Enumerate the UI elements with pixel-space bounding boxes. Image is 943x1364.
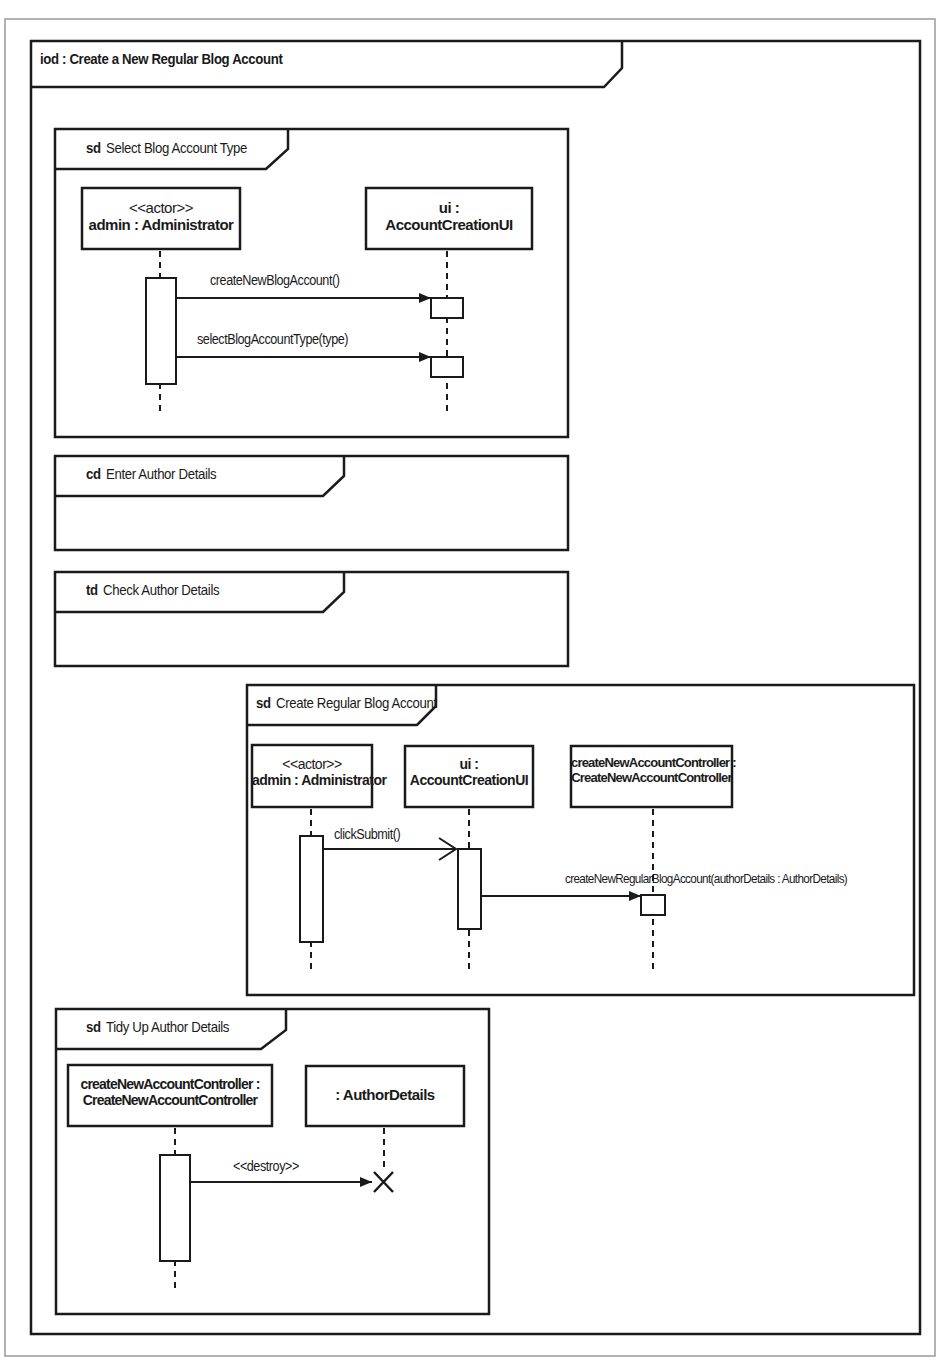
- fragment-name: Enter Author Details: [106, 465, 216, 482]
- fragment-kind: sd: [256, 694, 271, 711]
- lifeline-ui: ui : AccountCreationUI: [366, 199, 532, 234]
- fragment-name: Check Author Details: [103, 581, 219, 598]
- fragment-name: Tidy Up Author Details: [106, 1018, 229, 1035]
- message-label: <<destroy>>: [233, 1158, 299, 1174]
- lifeline-controller: createNewAccountController : CreateNewAc…: [68, 1076, 272, 1108]
- fragment-kind: sd: [86, 1018, 101, 1035]
- fragment-label: tdCheck Author Details: [86, 581, 219, 598]
- lifeline-admin: <<actor>> admin : Administrator: [252, 756, 372, 788]
- message-label: selectBlogAccountType(type): [197, 331, 348, 347]
- iod-frame-title: iod : Create a New Regular Blog Account: [40, 50, 282, 67]
- fragment-kind: cd: [86, 465, 101, 482]
- message-label: clickSubmit(): [334, 826, 400, 842]
- message-label: createNewBlogAccount(): [210, 272, 339, 288]
- lifeline-ui: ui : AccountCreationUI: [405, 756, 533, 788]
- message-label: createNewRegularBlogAccount(authorDetail…: [565, 872, 847, 887]
- fragment-label: cdEnter Author Details: [86, 465, 216, 482]
- fragment-label: sdCreate Regular Blog Account: [256, 694, 437, 711]
- lifeline-admin: <<actor>> admin : Administrator: [82, 199, 240, 234]
- lifeline-author-details: : AuthorDetails: [306, 1086, 464, 1103]
- fragment-name: Select Blog Account Type: [106, 139, 247, 156]
- destroy-x-icon: [374, 1172, 393, 1192]
- fragment-name: Create Regular Blog Account: [276, 694, 437, 711]
- fragment-label: sdTidy Up Author Details: [86, 1018, 229, 1035]
- fragment-kind: td: [86, 581, 98, 598]
- lifeline-controller: createNewAccountController : CreateNewAc…: [571, 756, 732, 786]
- fragment-kind: sd: [86, 139, 101, 156]
- fragment-label: sdSelect Blog Account Type: [86, 139, 247, 156]
